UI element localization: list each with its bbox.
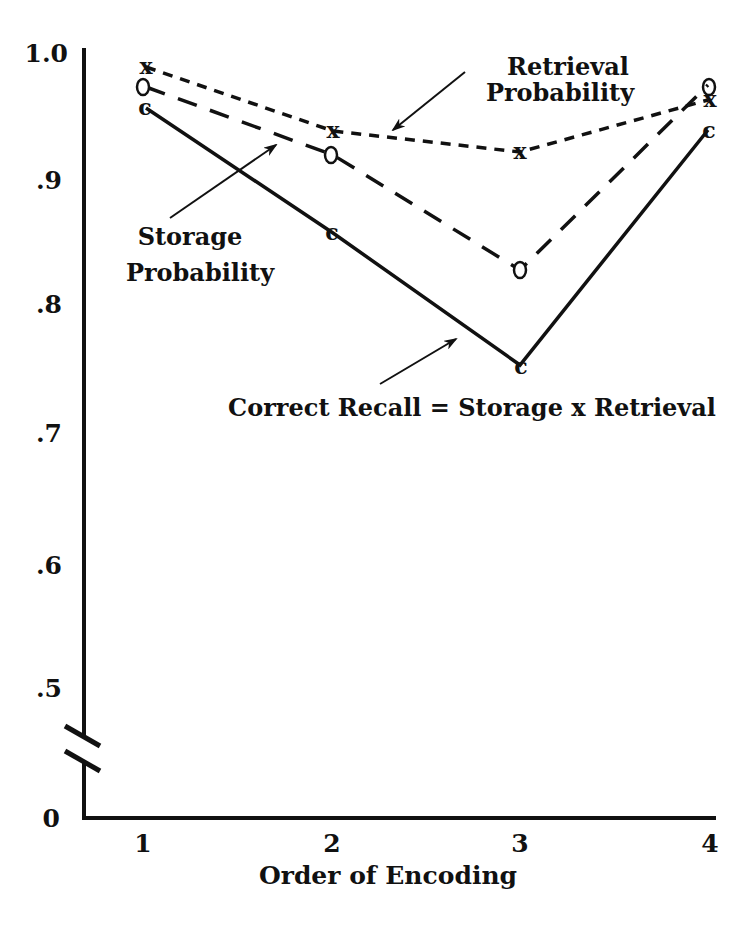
x-tick-label: 1 — [134, 829, 151, 858]
annotation-retrieval: Retrieval Probability — [393, 52, 635, 130]
annotation-storage-line1: Storage — [138, 222, 243, 251]
c-marker-icon: c — [514, 353, 527, 379]
x-axis: 1 2 3 4 Order of Encoding — [82, 818, 719, 890]
c-marker-icon: c — [702, 117, 715, 143]
y-tick-label: .8 — [36, 290, 62, 319]
annotation-storage-line2: Probability — [126, 258, 275, 287]
circle-marker-icon — [514, 262, 526, 278]
y-tick-label: .5 — [36, 674, 62, 703]
annotation-recall-text: Correct Recall = Storage x Retrieval — [228, 393, 716, 422]
x-tick-label: 3 — [511, 829, 528, 858]
annotation-retrieval-line2: Probability — [486, 78, 635, 107]
x-tick-label: 2 — [323, 829, 340, 858]
y-axis: 1.0 .9 .8 .7 .6 .5 0 — [25, 39, 101, 833]
chart: 1.0 .9 .8 .7 .6 .5 0 1 2 3 4 Order of En… — [0, 0, 755, 929]
circle-marker-icon — [137, 79, 149, 95]
arrow-icon — [393, 72, 465, 130]
c-marker-icon: c — [138, 94, 151, 120]
x-tick-label: 4 — [701, 829, 718, 858]
x-axis-title: Order of Encoding — [259, 861, 517, 890]
x-marker-icon: x — [139, 53, 153, 79]
arrow-icon — [170, 145, 276, 218]
circle-marker-icon — [325, 147, 337, 163]
x-marker-icon: x — [513, 138, 527, 164]
y-tick-label: .6 — [36, 551, 62, 580]
annotation-retrieval-line1: Retrieval — [507, 52, 629, 81]
y-tick-label: 0 — [43, 804, 60, 833]
x-marker-icon: x — [326, 117, 340, 143]
series-retrieval: x x x x — [139, 53, 717, 164]
y-tick-label: .9 — [36, 166, 62, 195]
y-tick-label: 1.0 — [25, 39, 69, 68]
annotation-storage: Storage Probability — [126, 145, 276, 287]
arrow-icon — [380, 339, 456, 384]
y-tick-label: .7 — [36, 419, 62, 448]
c-marker-icon: c — [325, 219, 338, 245]
annotation-recall: Correct Recall = Storage x Retrieval — [228, 339, 716, 422]
